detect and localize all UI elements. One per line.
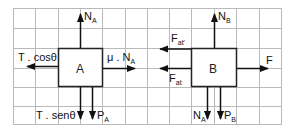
block-a-label: A [76, 62, 84, 76]
label-friction-bottom: Fat [169, 72, 182, 86]
label-normal-from-a: NA [193, 109, 206, 123]
free-body-diagrams: A NA T . cosθ μ . NA T . senθ PA B NB [0, 0, 294, 132]
label-weight-b: PB [224, 109, 236, 123]
label-weight-a: PA [97, 109, 109, 123]
label-tension-vertical: T . senθ [36, 109, 76, 121]
label-friction-a: μ . NA [107, 51, 135, 65]
label-normal-b: NB [218, 10, 231, 24]
label-friction-top: Fat' [171, 32, 185, 46]
label-normal-a: NA [84, 10, 97, 24]
label-tension-horizontal: T . cosθ [18, 51, 57, 63]
block-b-label: B [209, 62, 217, 76]
label-applied-force: F [266, 54, 273, 66]
